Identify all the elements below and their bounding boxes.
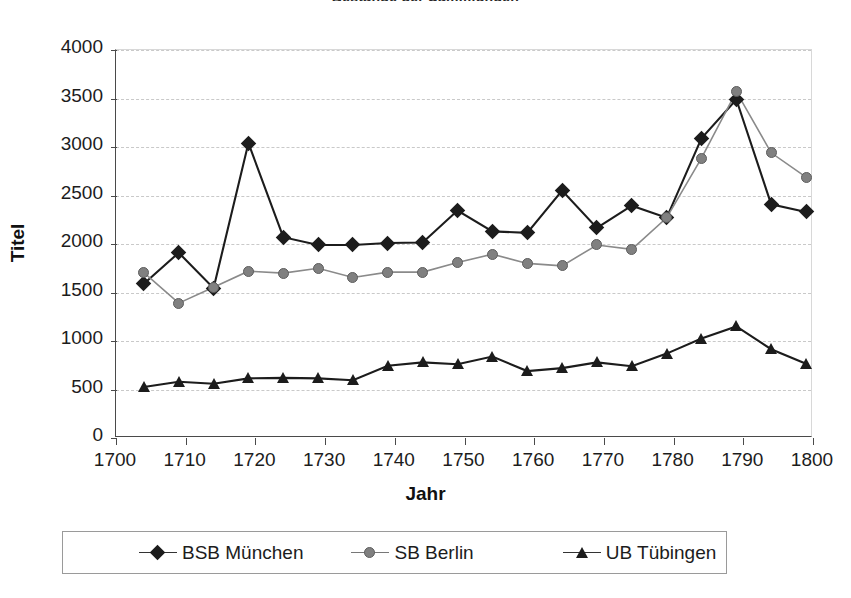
data-point — [661, 348, 673, 359]
legend-label: SB Berlin — [394, 542, 473, 564]
data-point — [313, 263, 324, 274]
data-point — [382, 360, 394, 371]
data-point — [521, 365, 533, 376]
chart-title: Bestände der Sammlungen — [0, 0, 851, 1]
data-point — [208, 282, 219, 293]
series-lines — [116, 50, 813, 438]
data-point — [695, 333, 707, 344]
data-point — [522, 258, 533, 269]
data-point — [417, 356, 429, 367]
legend-swatch-diamond-icon — [139, 546, 177, 560]
plot-area — [115, 49, 812, 437]
data-point — [278, 268, 289, 279]
y-axis-title: Titel — [7, 224, 29, 263]
x-axis-tick-label: 1760 — [512, 449, 554, 471]
legend-marker-triangle-icon — [576, 547, 588, 558]
data-point — [556, 362, 568, 373]
x-axis-tick-label: 1790 — [721, 449, 763, 471]
x-axis-tick-label: 1780 — [651, 449, 693, 471]
legend-marker-wrap — [364, 547, 375, 558]
data-point — [766, 147, 777, 158]
series-line-0 — [144, 99, 806, 288]
data-point — [765, 343, 777, 354]
x-axis-tick-label: 1720 — [233, 449, 275, 471]
legend-marker-wrap — [576, 547, 588, 558]
legend-marker-circle-icon — [364, 547, 375, 558]
data-point — [243, 266, 254, 277]
data-point — [487, 249, 498, 260]
legend-item-0[interactable]: BSB München — [63, 542, 303, 564]
x-axis-tick — [813, 438, 814, 445]
chart-container: Bestände der Sammlungen Titel 0500100015… — [0, 0, 851, 598]
data-point — [173, 298, 184, 309]
legend-marker-diamond-icon — [150, 544, 166, 560]
x-axis-tick-label: 1730 — [303, 449, 345, 471]
x-axis-tick-label: 1740 — [373, 449, 415, 471]
data-point — [730, 320, 742, 331]
data-point — [486, 351, 498, 362]
data-point — [208, 378, 220, 389]
data-point — [277, 372, 289, 383]
data-point — [731, 86, 742, 97]
data-point — [452, 358, 464, 369]
data-point — [591, 356, 603, 367]
legend-label: BSB München — [182, 542, 303, 564]
data-point — [382, 267, 393, 278]
data-point — [312, 372, 324, 383]
data-point — [801, 172, 812, 183]
x-axis-tick-label: 1750 — [442, 449, 484, 471]
data-point — [242, 372, 254, 383]
x-axis-tick-label: 1800 — [791, 449, 833, 471]
chart-legend: BSB MünchenSB BerlinUB Tübingen — [62, 531, 727, 574]
legend-swatch-triangle-icon — [563, 546, 601, 560]
data-point — [626, 360, 638, 371]
x-axis-tick-label: 1710 — [164, 449, 206, 471]
data-point — [557, 260, 568, 271]
legend-label: UB Tübingen — [606, 542, 717, 564]
x-axis-title: Jahr — [0, 483, 851, 505]
legend-item-1[interactable]: SB Berlin — [303, 542, 514, 564]
x-axis-tick-label: 1700 — [94, 449, 136, 471]
data-point — [138, 381, 150, 392]
data-point — [173, 376, 185, 387]
x-axis-labels: 1700171017201730174017501760177017801790… — [115, 437, 812, 477]
legend-item-2[interactable]: UB Tübingen — [515, 542, 726, 564]
data-point — [417, 267, 428, 278]
legend-marker-wrap — [152, 547, 163, 558]
data-point — [696, 153, 707, 164]
data-point — [347, 374, 359, 385]
data-point — [800, 358, 812, 369]
legend-swatch-circle-icon — [351, 546, 389, 560]
data-point — [452, 257, 463, 268]
x-axis-tick-label: 1770 — [582, 449, 624, 471]
